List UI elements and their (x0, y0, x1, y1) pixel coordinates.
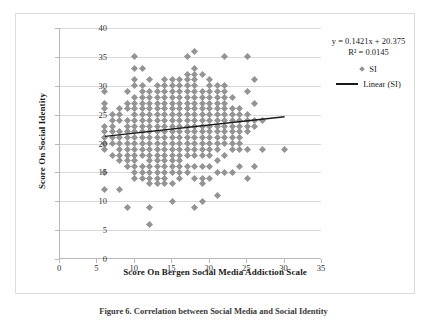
y-axis-title: Score On Social Identity (37, 66, 47, 216)
x-axis-tick-mark (246, 259, 247, 263)
y-axis-tick-mark (55, 115, 59, 116)
x-axis-tick-mark (59, 259, 60, 263)
x-axis-tick-label: 25 (233, 264, 259, 273)
line-marker-icon (336, 83, 358, 85)
y-axis-tick-label: 35 (81, 53, 107, 62)
y-axis-tick-mark (55, 172, 59, 173)
legend-item-si[interactable]: SI (321, 64, 416, 74)
figure-caption: Figure 6. Correlation between Social Med… (0, 306, 427, 316)
x-axis-tick-label: 5 (83, 264, 109, 273)
x-axis-tick-label: 20 (196, 264, 222, 273)
y-axis-tick-label: 5 (81, 226, 107, 235)
legend-item-linear[interactable]: Linear (SI) (321, 79, 416, 89)
y-axis-tick-mark (55, 28, 59, 29)
x-axis-tick-mark (134, 259, 135, 263)
y-axis-tick-label: 25 (81, 111, 107, 120)
x-axis-tick-mark (209, 259, 210, 263)
diamond-marker-icon (359, 66, 365, 72)
y-axis-tick-label: 15 (81, 168, 107, 177)
x-axis-tick-label: 0 (46, 264, 72, 273)
trendline-segment (105, 117, 285, 137)
y-axis-tick-mark (55, 57, 59, 58)
legend-label-linear: Linear (SI) (363, 79, 401, 89)
y-axis-tick-label: 30 (81, 82, 107, 91)
x-axis-tick-mark (284, 259, 285, 263)
regression-equation: y = 0.1421x + 20.375 (321, 36, 416, 47)
y-axis-tick-mark (55, 144, 59, 145)
figure-frame: Score On Social Identity Score On Bergen… (15, 13, 415, 294)
y-axis-tick-mark (55, 201, 59, 202)
x-axis-tick-label: 30 (271, 264, 297, 273)
x-axis-tick-label: 10 (121, 264, 147, 273)
y-axis-tick-label: 10 (81, 197, 107, 206)
x-axis-tick-label: 35 (308, 264, 334, 273)
y-axis-tick-label: 20 (81, 140, 107, 149)
x-axis-tick-mark (171, 259, 172, 263)
y-axis-tick-mark (55, 230, 59, 231)
x-axis-tick-mark (321, 259, 322, 263)
r-squared-value: R² = 0.0145 (321, 47, 416, 58)
x-axis-tick-mark (96, 259, 97, 263)
chart-legend: y = 0.1421x + 20.375 R² = 0.0145 SI Line… (321, 36, 416, 89)
y-axis-tick-mark (55, 86, 59, 87)
y-axis-tick-label: 40 (81, 24, 107, 33)
x-axis-tick-label: 15 (158, 264, 184, 273)
legend-label-si: SI (369, 64, 377, 74)
